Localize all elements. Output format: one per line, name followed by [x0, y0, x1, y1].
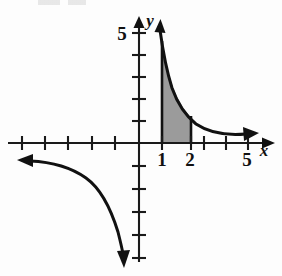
curve-path-quadrant-3: [30, 161, 123, 254]
x-axis-label: x: [259, 141, 269, 160]
y-tick-label-5: 5: [117, 23, 127, 44]
y-axis-label: y: [144, 11, 154, 30]
curve-arrowhead-up: [155, 19, 166, 33]
x-tick-label-1: 1: [157, 149, 167, 170]
hyperbola-graph: x y 5 1 2 5: [0, 0, 282, 276]
x-tick-label-2: 2: [185, 149, 195, 170]
y-axis-arrowhead: [134, 16, 145, 28]
curve-branch-quadrant-3: [17, 154, 130, 268]
x-axis-group: [8, 136, 275, 150]
shaded-area-group: [162, 41, 191, 143]
curve-arrowhead-down: [117, 250, 130, 268]
shaded-area-under-curve: [162, 41, 191, 143]
curve-arrowhead-left: [17, 154, 33, 167]
curve-arrowhead-right: [243, 127, 259, 141]
y-axis-group: [132, 16, 146, 262]
figure-container: x y 5 1 2 5: [0, 0, 282, 276]
x-tick-label-5: 5: [242, 149, 252, 170]
